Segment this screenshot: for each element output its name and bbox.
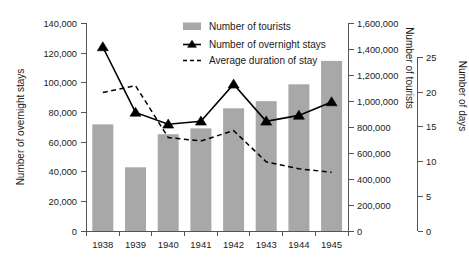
left-tick-20000: 20,000 xyxy=(49,197,77,207)
legend-label-tourists: Number of tourists xyxy=(209,21,291,32)
right-axis-title-tourists: Number of tourists xyxy=(404,27,415,109)
x-tick-1945: 1945 xyxy=(321,239,342,250)
right-axis-title-days: Number of days xyxy=(457,61,468,132)
right-tick-200000: 200,000 xyxy=(357,201,391,211)
left-axis-title: Number of overnight stays xyxy=(15,69,26,186)
right-tick-1200000: 1,200,000 xyxy=(357,71,398,81)
days-tick-25: 25 xyxy=(426,53,436,63)
tourism-statistics-chart: Number of tourists Number of overnight s… xyxy=(0,0,469,273)
x-tick-1938: 1938 xyxy=(92,239,113,250)
right-axis-days: 25 20 15 10 5 0 Number of days xyxy=(418,53,469,237)
right-axis-tourists: 1,600,000 1,400,000 1,200,000 1,000,000 … xyxy=(349,19,416,237)
right-tick-0: 0 xyxy=(357,227,362,237)
bar-1938 xyxy=(92,124,113,231)
days-tick-20: 20 xyxy=(426,88,436,98)
chart-container: Number of tourists Number of overnight s… xyxy=(0,0,469,273)
bar-1941 xyxy=(190,128,211,231)
left-tick-80000: 80,000 xyxy=(49,108,77,118)
x-axis: 1938 1939 1940 1941 1942 1943 1944 1945 xyxy=(87,231,349,250)
days-tick-15: 15 xyxy=(426,122,436,132)
bar-1944 xyxy=(288,84,309,231)
left-tick-0: 0 xyxy=(72,227,77,237)
days-tick-5: 5 xyxy=(426,192,431,202)
chart-legend: Number of tourists Number of overnight s… xyxy=(183,21,326,66)
left-tick-40000: 40,000 xyxy=(49,167,77,177)
left-tick-100000: 100,000 xyxy=(43,78,77,88)
left-tick-140000: 140,000 xyxy=(43,19,77,29)
bar-1939 xyxy=(125,167,146,231)
x-tick-1944: 1944 xyxy=(288,239,309,250)
days-tick-10: 10 xyxy=(426,157,436,167)
left-tick-120000: 120,000 xyxy=(43,49,77,59)
x-tick-1942: 1942 xyxy=(223,239,244,250)
legend-label-avg-duration: Average duration of stay xyxy=(209,55,317,66)
bar-1945 xyxy=(321,61,342,231)
right-tick-1600000: 1,600,000 xyxy=(357,19,398,29)
right-tick-800000: 800,000 xyxy=(357,123,391,133)
marker-1939 xyxy=(130,107,141,116)
x-tick-1941: 1941 xyxy=(190,239,211,250)
marker-1938 xyxy=(97,42,108,51)
marker-1942 xyxy=(228,79,239,88)
x-tick-1940: 1940 xyxy=(158,239,179,250)
right-tick-600000: 600,000 xyxy=(357,149,391,159)
left-tick-60000: 60,000 xyxy=(49,138,77,148)
left-axis: 140,000 120,000 100,000 80,000 60,000 40… xyxy=(15,19,87,237)
legend-swatch-bar xyxy=(183,23,201,31)
x-tick-1943: 1943 xyxy=(256,239,277,250)
right-tick-1000000: 1,000,000 xyxy=(357,97,398,107)
legend-label-overnight-stays: Number of overnight stays xyxy=(209,39,326,50)
bar-1942 xyxy=(223,108,244,231)
right-tick-1400000: 1,400,000 xyxy=(357,45,398,55)
days-tick-0: 0 xyxy=(426,227,431,237)
bar-1940 xyxy=(158,134,179,231)
right-tick-400000: 400,000 xyxy=(357,175,391,185)
x-tick-1939: 1939 xyxy=(125,239,146,250)
